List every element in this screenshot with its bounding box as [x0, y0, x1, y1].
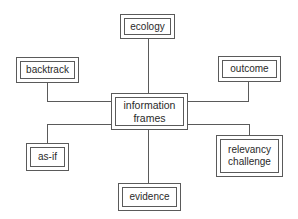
concept-diagram: ecology backtrack outcome information fr…: [0, 0, 298, 219]
node-label: outcome: [222, 60, 277, 78]
node-label: backtrack: [20, 61, 75, 79]
node-information-frames: information frames: [111, 93, 188, 130]
edge-backtrack: [48, 82, 112, 102]
node-label: relevancy challenge: [220, 139, 279, 173]
node-backtrack: backtrack: [16, 57, 79, 83]
node-label: information frames: [115, 97, 184, 126]
node-evidence: evidence: [118, 183, 181, 211]
node-outcome: outcome: [218, 56, 281, 82]
edge-relevancy-challenge: [187, 125, 250, 136]
edge-as-if: [48, 125, 112, 144]
node-label: ecology: [124, 18, 171, 35]
node-label: evidence: [122, 187, 177, 207]
node-ecology: ecology: [120, 14, 175, 39]
node-as-if: as-if: [26, 143, 69, 171]
edge-outcome: [187, 81, 249, 102]
node-relevancy-challenge: relevancy challenge: [216, 135, 283, 177]
node-label: as-if: [30, 147, 65, 167]
